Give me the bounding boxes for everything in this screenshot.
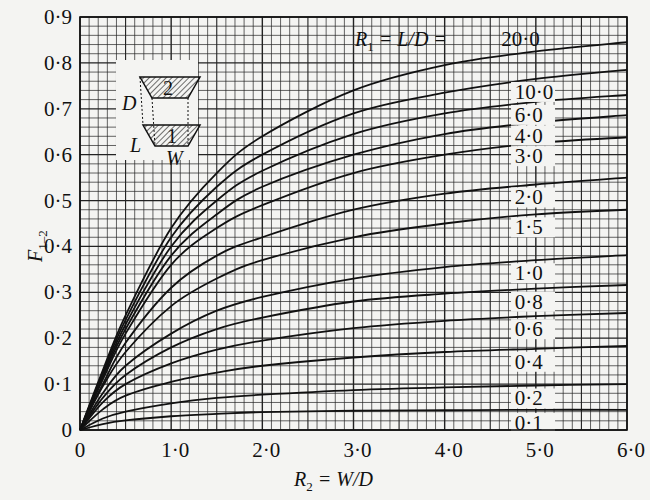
dimension-w-label: W	[166, 147, 185, 169]
y-tick-label: 0·3	[44, 280, 72, 304]
y-tick-label: 0·6	[44, 143, 72, 167]
x-tick-label: 6·0	[617, 438, 645, 462]
y-tick-label: 0·1	[44, 372, 72, 396]
inset-diagram: 2 1 D L W	[116, 60, 200, 169]
curve-label: 20·0	[501, 27, 540, 51]
y-tick-label: 0·9	[44, 5, 72, 29]
curve-label: 0·1	[515, 411, 543, 435]
legend-r: R	[354, 28, 367, 50]
curve-label: 10·0	[515, 80, 554, 104]
x-tick-label: 1·0	[161, 438, 189, 462]
y-tick-label: 0	[62, 418, 73, 442]
curve-label: 0·2	[515, 386, 543, 410]
x-tick-label: 3·0	[344, 438, 372, 462]
curve-label: 2·0	[515, 185, 543, 209]
view-factor-chart: 2 1 D L W 20·010·06·04·03·02·01·51·00·80…	[0, 0, 650, 500]
curve-label: 3·0	[515, 144, 543, 168]
y-tick-label: 0·5	[44, 189, 72, 213]
dimension-d-label: D	[121, 92, 137, 114]
curve-label: 1·5	[515, 215, 543, 239]
surface-1-label: 1	[167, 125, 177, 147]
surface-2-label: 2	[163, 77, 173, 99]
x-tick-label: 5·0	[526, 438, 554, 462]
y-tick-label: 0·8	[44, 51, 72, 75]
curve-label: 0·8	[515, 290, 543, 314]
y-tick-label: 0·7	[44, 97, 72, 121]
curve-label: 1·0	[515, 261, 543, 285]
x-tick-label: 2·0	[252, 438, 280, 462]
curve-label: 0·6	[515, 317, 543, 341]
dimension-l-label: L	[129, 134, 141, 156]
y-tick-label: 0·2	[44, 326, 72, 350]
x-tick-label: 0	[75, 438, 86, 462]
x-tick-label: 4·0	[435, 438, 463, 462]
curve-label: 0·4	[515, 350, 543, 374]
legend-rest: = L/D =	[374, 28, 447, 50]
